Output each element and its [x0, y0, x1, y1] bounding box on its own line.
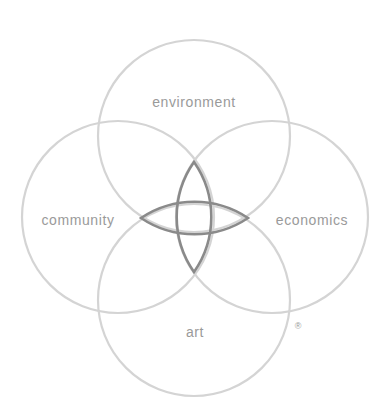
venn-diagram: environment community economics art ®	[0, 0, 386, 417]
label-environment: environment	[152, 94, 236, 110]
label-economics: economics	[276, 212, 348, 228]
registered-trademark-mark: ®	[295, 321, 302, 331]
label-art: art	[186, 324, 204, 340]
label-community: community	[41, 212, 114, 228]
core-lens-horizontal	[141, 202, 248, 235]
